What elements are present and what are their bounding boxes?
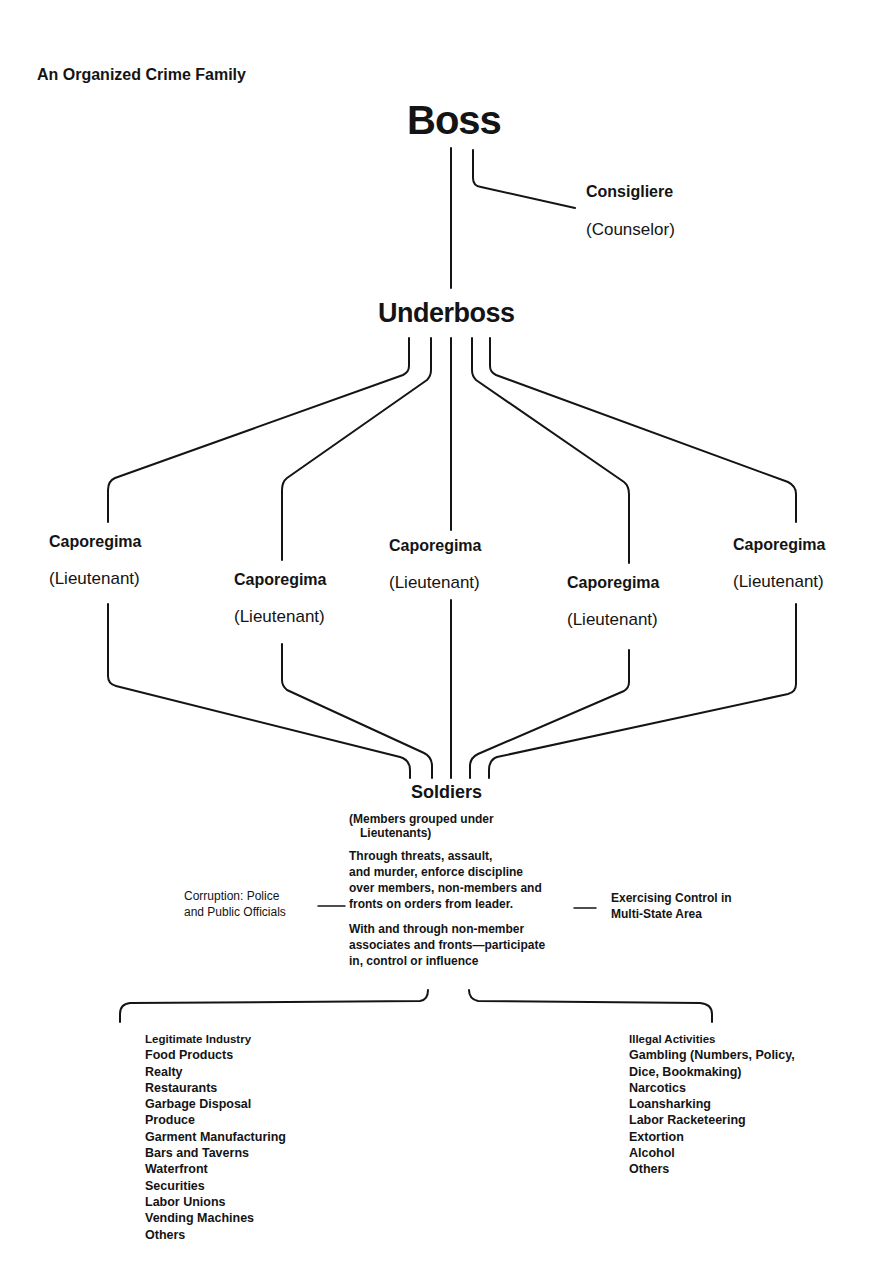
legitimate-item: Labor Unions [145,1194,286,1210]
caporegima-5-label: Caporegima [733,536,825,554]
underboss-capo5-line [490,338,796,522]
underboss-capo1-line [108,338,409,522]
illegal-item: Narcotics [629,1080,795,1096]
caporegima-4-label: Caporegima [567,574,659,592]
caporegima-5-sublabel: (Lieutenant) [733,572,824,592]
diagram-title: An Organized Crime Family [37,66,246,84]
caporegima-3-sublabel: (Lieutenant) [389,573,480,593]
legitimate-item: Others [145,1227,286,1243]
capo2-soldiers-line [282,644,432,778]
illegal-item: Labor Racketeering [629,1112,795,1128]
control-line-2: Multi-State Area [611,907,702,922]
legitimate-industry-header: Legitimate Industry [145,1031,286,1047]
boss-node: Boss [407,98,501,143]
legitimate-item: Securities [145,1178,286,1194]
illegal-item: Dice, Bookmaking) [629,1064,795,1080]
legitimate-item: Garbage Disposal [145,1096,286,1112]
illegal-item: Extortion [629,1129,795,1145]
underboss-capo4-line [472,338,629,563]
associates-line-1: With and through non-member [349,922,524,937]
capo1-soldiers-line [108,604,410,778]
legitimate-item: Produce [145,1112,286,1128]
soldiers-note-line-1: (Members grouped under [349,812,494,827]
associates-line-2: associates and fronts—participate [349,938,545,953]
legitimate-item: Restaurants [145,1080,286,1096]
soldiers-note-line-2: Lieutenants) [360,826,431,841]
discipline-line-4: fronts on orders from leader. [349,897,513,912]
soldiers-illegal-line-drawn [469,990,712,1022]
consigliere-sublabel: (Counselor) [586,220,675,240]
corruption-line-2: and Public Officials [184,905,286,920]
legitimate-item: Realty [145,1064,286,1080]
consigliere-label: Consigliere [586,183,673,201]
discipline-line-1: Through threats, assault, [349,849,492,864]
illegal-item: Others [629,1161,795,1177]
legitimate-industry-list: Legitimate Industry Food Products Realty… [145,1031,286,1243]
capo5-soldiers-line [489,604,796,778]
caporegima-2-sublabel: (Lieutenant) [234,607,325,627]
illegal-activities-list: Illegal Activities Gambling (Numbers, Po… [629,1031,795,1178]
underboss-node: Underboss [378,298,515,329]
caporegima-3-label: Caporegima [389,537,481,555]
illegal-activities-header: Illegal Activities [629,1031,795,1047]
legitimate-item: Bars and Taverns [145,1145,286,1161]
legitimate-item: Waterfront [145,1161,286,1177]
legitimate-item: Vending Machines [145,1210,286,1226]
discipline-line-3: over members, non-members and [349,881,542,896]
associates-line-3: in, control or influence [349,954,478,969]
illegal-item: Alcohol [629,1145,795,1161]
control-line-1: Exercising Control in [611,891,732,906]
corruption-line-1: Corruption: Police [184,889,279,904]
caporegima-1-sublabel: (Lieutenant) [49,569,140,589]
caporegima-1-label: Caporegima [49,533,141,551]
legitimate-item: Garment Manufacturing [145,1129,286,1145]
soldiers-legitimate-line [120,990,428,1022]
soldiers-node: Soldiers [411,782,482,803]
illegal-item: Loansharking [629,1096,795,1112]
caporegima-2-label: Caporegima [234,571,326,589]
legitimate-item: Food Products [145,1047,286,1063]
caporegima-4-sublabel: (Lieutenant) [567,610,658,630]
illegal-item: Gambling (Numbers, Policy, [629,1047,795,1063]
boss-consigliere-line [473,150,575,208]
discipline-line-2: and murder, enforce discipline [349,865,523,880]
